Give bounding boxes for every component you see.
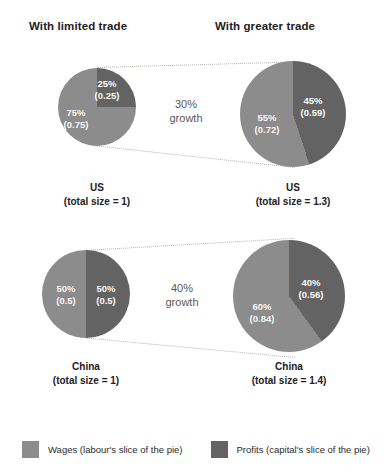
pie-us-limited-wages-label: 75% (0.75)	[56, 107, 96, 130]
pie-caption-china-greater: China (total size = 1.4)	[219, 360, 359, 387]
column-header-limited-trade: With limited trade	[29, 20, 127, 32]
pie-caption-us-greater: US (total size = 1.3)	[223, 181, 363, 208]
chart-legend: Wages (labour's slice of the pie) Profit…	[0, 441, 384, 458]
growth-annotation-us: 30% growth	[146, 97, 226, 125]
pie-us-limited-profits-label: 25% (0.25)	[86, 78, 128, 101]
pie-us-greater-profits-label: 45% (0.59)	[291, 95, 335, 118]
legend-label-wages: Wages (labour's slice of the pie)	[48, 444, 183, 455]
legend-swatch-wages-icon	[22, 441, 39, 458]
chart-canvas: With limited trade With greater trade 25…	[0, 0, 384, 474]
legend-item-profits[interactable]: Profits (capital's slice of the pie)	[211, 441, 370, 458]
connector-us-top	[97, 62, 293, 68]
pie-china-greater-profits-label: 40% (0.56)	[289, 277, 333, 300]
legend-label-profits: Profits (capital's slice of the pie)	[237, 444, 370, 455]
pie-china-limited-profits-label: 50% (0.5)	[87, 283, 125, 306]
pie-china-greater-wages-label: 60% (0.84)	[240, 301, 284, 324]
legend-item-wages[interactable]: Wages (labour's slice of the pie)	[22, 441, 183, 458]
pie-us-greater-wages-label: 55% (0.72)	[245, 112, 289, 135]
growth-annotation-china: 40% growth	[142, 281, 222, 309]
column-header-greater-trade: With greater trade	[215, 20, 315, 32]
pie-china-limited-wages-label: 50% (0.5)	[47, 283, 85, 306]
pie-caption-china-limited: China (total size = 1)	[16, 360, 156, 387]
pie-caption-us-limited: US (total size = 1)	[27, 181, 167, 208]
legend-swatch-profits-icon	[211, 441, 228, 458]
